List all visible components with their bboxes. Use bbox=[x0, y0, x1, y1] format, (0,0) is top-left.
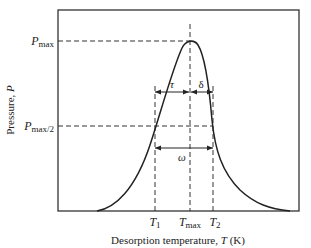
omega-label: ω bbox=[178, 151, 186, 163]
x-tick-t2: T2 bbox=[209, 215, 220, 230]
svg-text:T2: T2 bbox=[209, 215, 220, 230]
svg-text:Pressure, P: Pressure, P bbox=[4, 85, 16, 135]
y-tick-pmax-half: Pmax/2 bbox=[23, 119, 54, 134]
x-axis-title: Desorption temperature, T (K) bbox=[111, 234, 245, 247]
tau-label: τ bbox=[170, 78, 175, 90]
tpd-diagram: τ δ ω Pmax Pmax/2 T1 Tmax T2 Desorption … bbox=[0, 0, 311, 248]
x-tick-t1: T1 bbox=[149, 215, 160, 230]
y-axis-title: Pressure, P bbox=[4, 85, 16, 135]
svg-text:Tmax: Tmax bbox=[179, 215, 202, 230]
svg-text:Desorption temperature, T (K): Desorption temperature, T (K) bbox=[111, 234, 245, 247]
x-tick-tmax: Tmax bbox=[179, 215, 202, 230]
svg-text:Pmax/2: Pmax/2 bbox=[23, 119, 54, 134]
plot-frame bbox=[58, 10, 299, 211]
svg-text:T1: T1 bbox=[149, 215, 160, 230]
svg-text:Pmax: Pmax bbox=[30, 34, 54, 49]
delta-label: δ bbox=[198, 78, 203, 90]
y-tick-pmax: Pmax bbox=[30, 34, 54, 49]
